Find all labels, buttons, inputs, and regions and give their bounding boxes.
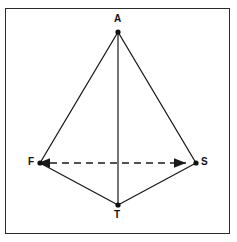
vertex-label-s: S: [201, 157, 208, 167]
vertex-dot-A: [115, 29, 120, 34]
figure-root: A F S T: [0, 0, 237, 242]
edge-A-S: [118, 32, 196, 163]
solid-edges: [40, 32, 196, 205]
vertex-label-t: T: [114, 210, 120, 220]
tetrahedron-diagram: [0, 0, 237, 242]
vertex-dot-F: [37, 160, 42, 165]
vertex-label-f: F: [28, 157, 34, 167]
edge-A-F: [40, 32, 118, 163]
vertex-label-a: A: [114, 14, 121, 24]
vertex-dot-S: [193, 160, 198, 165]
vertex-dot-T: [115, 202, 120, 207]
edge-F-T: [40, 163, 118, 205]
edge-T-S: [118, 163, 196, 205]
